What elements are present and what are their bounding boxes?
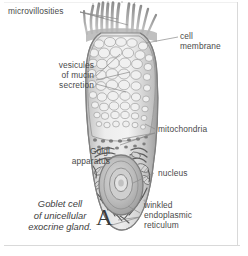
leader-microvillosities — [80, 12, 128, 25]
frame-right-rule — [237, 2, 238, 245]
microvilli-group — [84, 3, 156, 35]
apical-membrane-band — [86, 28, 157, 42]
label-nucleus: nucleus — [158, 168, 188, 178]
leader-er — [112, 206, 140, 225]
label-winkled-endoplasmic-reticulum: winkled endoplasmic reticulum — [144, 200, 192, 230]
frame-bottom-rule — [4, 245, 240, 246]
leader-cell-membrane — [146, 37, 178, 43]
mucin-theca — [88, 36, 156, 141]
label-microvillosities: microvillosities — [8, 6, 64, 16]
label-vesicles-of-mucin-secretion: vesicules of mucin secretion — [16, 60, 94, 90]
leader-mitochondria — [120, 124, 155, 145]
panel-letter: A — [96, 206, 113, 229]
nucleolus — [115, 175, 128, 192]
label-golgi-apparatus: Golgi apparatus — [34, 146, 110, 166]
leader-nucleus — [133, 173, 154, 183]
figure-panel: microvillosities cell membrane vesicules… — [0, 0, 248, 256]
leader-vesicles — [96, 54, 130, 92]
mucin-vesicles-group — [88, 37, 153, 129]
frame-top-rule — [4, 2, 238, 3]
label-cell-membrane: cell membrane — [180, 31, 221, 51]
label-mitochondria: mitochondria — [158, 124, 207, 134]
leader-lines — [80, 12, 178, 225]
